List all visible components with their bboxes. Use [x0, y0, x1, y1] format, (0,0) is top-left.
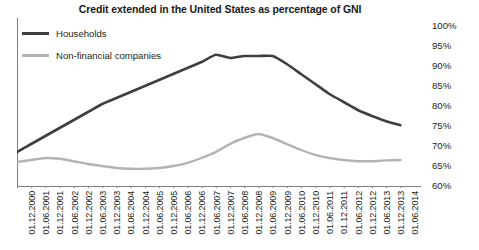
x-axis-tick-label: 01.06.2001 — [41, 191, 51, 235]
x-axis-tick-label: 01.12.2007 — [226, 191, 236, 235]
x-axis-tick-label: 01.06.2011 — [325, 191, 335, 234]
chart-title: Credit extended in the United States as … — [0, 3, 440, 15]
x-axis-tick-label: 01.12.2009 — [283, 191, 293, 235]
chart-container: Credit extended in the United States as … — [0, 0, 479, 250]
y-axis-tick-label: 65% — [432, 160, 451, 171]
x-axis-tick-label: 01.12.2001 — [55, 191, 65, 235]
series-line-households — [17, 55, 400, 152]
y-axis-labels: 100%95%90%85%80%75%70%65%60% — [432, 0, 479, 250]
y-axis-tick-label: 95% — [432, 40, 451, 51]
x-axis-tick-label: 01.12.2000 — [27, 191, 37, 235]
x-axis-tick-label: 01.12.2012 — [368, 191, 378, 235]
x-axis-tick-label: 01.12.2004 — [141, 191, 151, 235]
legend-label-non-financial-companies: Non-financial companies — [56, 50, 161, 61]
x-axis-tick-label: 01.12.2010 — [311, 191, 321, 235]
y-axis-tick-label: 80% — [432, 100, 451, 111]
x-axis-tick-label: 01.06.2007 — [212, 191, 222, 235]
x-axis-tick-label: 01.12.2003 — [112, 191, 122, 235]
y-axis-tick-label: 60% — [432, 180, 451, 191]
x-axis-tick-label: 01.12.2002 — [84, 191, 94, 235]
x-axis-tick-label: 01.06.2009 — [268, 191, 278, 235]
y-axis-tick-label: 70% — [432, 140, 451, 151]
x-axis-tick-label: 01.12.2008 — [254, 191, 264, 235]
y-axis-tick-label: 85% — [432, 80, 451, 91]
chart-legend: Households Non-financial companies — [22, 24, 232, 68]
x-axis-tick-label: 01.06.2006 — [183, 191, 193, 235]
x-axis-tick-label: 01.12.2011 — [339, 191, 349, 234]
y-axis-tick-label: 100% — [432, 20, 457, 31]
x-axis-tick-label: 01.06.2008 — [240, 191, 250, 235]
y-axis-tick-label: 75% — [432, 120, 451, 131]
series-line-non-financial-companies — [17, 134, 400, 169]
x-axis-tick-label: 01.06.2013 — [382, 191, 392, 235]
x-axis-tick-label: 01.06.2012 — [354, 191, 364, 235]
legend-item-households: Households — [22, 24, 232, 42]
x-axis-tick-label: 01.06.2004 — [126, 191, 136, 235]
x-axis-tick-label: 01.06.2005 — [155, 191, 165, 235]
x-axis-tick-label: 01.12.2006 — [197, 191, 207, 235]
y-axis-tick-label: 90% — [432, 60, 451, 71]
legend-swatch-non-financial-companies — [22, 54, 49, 57]
x-axis-labels: 01.12.200001.06.200101.12.200101.06.2002… — [17, 191, 421, 250]
data-series-group — [17, 55, 400, 169]
legend-label-households: Households — [56, 28, 107, 39]
x-axis-tick-label: 01.06.2002 — [70, 191, 80, 235]
x-axis-tick-label: 01.12.2013 — [396, 191, 406, 235]
legend-item-non-financial-companies: Non-financial companies — [22, 46, 232, 64]
x-axis-tick-label: 01.06.2010 — [297, 191, 307, 235]
legend-swatch-households — [22, 32, 49, 35]
x-axis-tick-label: 01.12.2005 — [169, 191, 179, 235]
x-axis-tick-label: 01.06.2014 — [410, 191, 420, 235]
x-axis-tick-label: 01.06.2003 — [98, 191, 108, 235]
